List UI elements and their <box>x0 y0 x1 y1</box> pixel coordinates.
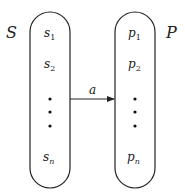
element-s1: s1 <box>44 26 55 42</box>
ellipsis-dot <box>48 124 51 127</box>
element-pn: pn <box>127 150 140 166</box>
set-p: P p1 p2 pn <box>115 12 177 188</box>
ellipsis-dot <box>133 97 136 100</box>
element-p2: p2 <box>128 57 141 73</box>
element-sn: sn <box>43 150 54 166</box>
ellipsis-dot <box>48 97 51 100</box>
mapping-arrow: a <box>70 83 114 99</box>
element-p1: p1 <box>128 26 141 42</box>
set-p-label: P <box>165 23 177 42</box>
ellipsis-dot <box>48 110 51 113</box>
arrow-label: a <box>89 83 96 97</box>
set-s: S s1 s2 sn <box>6 12 70 188</box>
mapping-diagram: S s1 s2 sn P p1 p2 pn a <box>0 0 185 194</box>
set-s-label: S <box>6 23 17 42</box>
ellipsis-dot <box>133 124 136 127</box>
element-s2: s2 <box>44 57 55 73</box>
ellipsis-dot <box>133 110 136 113</box>
